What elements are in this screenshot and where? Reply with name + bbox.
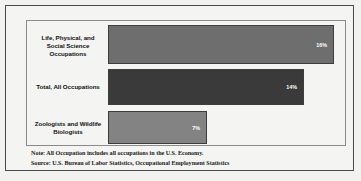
bar-row: Zoologists and Wildlife Biologists 7% bbox=[27, 111, 345, 145]
bar-value-label: 7% bbox=[192, 125, 200, 131]
footnotes: Note: All Occupation includes all occupa… bbox=[31, 149, 341, 168]
bar-category-label: Zoologists and Wildlife Biologists bbox=[29, 120, 107, 136]
bar-life-physical-social-science: 16% bbox=[108, 25, 334, 64]
footnote-source: Source: U.S. Bureau of Labor Statistics,… bbox=[31, 159, 341, 169]
bar-category-label-line2: Biologists bbox=[53, 128, 82, 135]
footnote-note: Note: All Occupation includes all occupa… bbox=[31, 149, 341, 159]
bar-total-all-occupations: 14% bbox=[108, 69, 304, 105]
bar-category-label-line1: Zoologists and Wildlife bbox=[35, 120, 102, 127]
chart-screenshot: Life, Physical, and Social Science Occup… bbox=[0, 0, 361, 181]
bar-category-label-line1: Life, Physical, and bbox=[41, 34, 94, 41]
bar-value-label: 16% bbox=[316, 42, 327, 48]
bar-category-label-line2: Social Science bbox=[47, 42, 90, 49]
bar-category-label: Life, Physical, and Social Science Occup… bbox=[29, 34, 107, 59]
bar-row: Life, Physical, and Social Science Occup… bbox=[27, 25, 345, 65]
bars-container: Life, Physical, and Social Science Occup… bbox=[27, 21, 345, 145]
bar-row: Total, All Occupations 14% bbox=[27, 69, 345, 106]
plot-area: Life, Physical, and Social Science Occup… bbox=[26, 20, 346, 146]
bar-category-label-line1: Total, All Occupations bbox=[36, 83, 100, 90]
bar-value-label: 14% bbox=[286, 84, 297, 90]
outer-frame: Life, Physical, and Social Science Occup… bbox=[5, 5, 354, 171]
bar-category-label-line3: Occupations bbox=[50, 50, 87, 57]
bar-zoologists-wildlife-biologists: 7% bbox=[108, 111, 207, 144]
bar-category-label: Total, All Occupations bbox=[29, 83, 107, 91]
